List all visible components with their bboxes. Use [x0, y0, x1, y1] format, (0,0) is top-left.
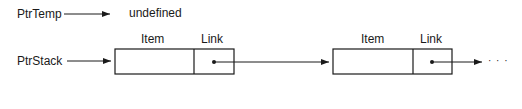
undefined-label: undefined — [129, 6, 182, 20]
node-1-item-label: Item — [141, 32, 164, 46]
node-2-link-label: Link — [420, 32, 442, 46]
linked-stack-diagram — [0, 0, 522, 109]
ptrtemp-label: PtrTemp — [17, 7, 62, 21]
ptrstack-label: PtrStack — [17, 54, 62, 68]
continuation-ellipsis: · · · — [488, 54, 509, 68]
node-1-link-label: Link — [201, 32, 223, 46]
node-2-item-label: Item — [361, 32, 384, 46]
